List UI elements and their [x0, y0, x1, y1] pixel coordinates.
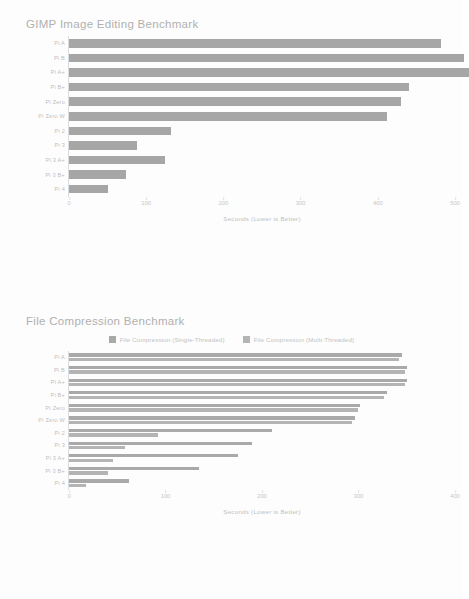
category-label: Pi 4	[55, 480, 65, 486]
legend-item[interactable]: File Compression (Multi-Threaded)	[243, 336, 355, 343]
bar-row: Pi A	[69, 36, 455, 51]
category-label: Pi B	[54, 367, 65, 373]
category-label: Pi 3	[55, 442, 65, 448]
x-axis-label: Seconds (Lower is Better)	[69, 215, 455, 222]
bar-group	[69, 54, 455, 63]
bar	[69, 141, 137, 150]
bar-row: Pi B+	[69, 80, 455, 95]
gimp-benchmark-chart: GIMP Image Editing Benchmark Pi APi BPi …	[0, 18, 463, 278]
bar	[69, 68, 469, 77]
bar-rows: Pi APi BPi A+Pi B+Pi ZeroPi Zero WPi 2Pi…	[26, 36, 455, 197]
bar-rows: Pi APi BPi A+Pi B+Pi ZeroPi Zero WPi 2Pi…	[26, 351, 455, 490]
x-tick-label: 0	[67, 200, 70, 206]
bar	[69, 454, 238, 457]
bar-row: Pi 4	[69, 477, 455, 490]
plot-area: Pi APi BPi A+Pi B+Pi ZeroPi Zero WPi 2Pi…	[26, 351, 455, 515]
category-label: Pi 4	[55, 186, 65, 192]
bar-row: Pi 3 A+	[69, 153, 455, 168]
bar	[69, 358, 399, 361]
bar-row: Pi Zero	[69, 94, 455, 109]
bar-group	[69, 379, 455, 387]
bar-group	[69, 68, 455, 77]
plot: Pi APi BPi A+Pi B+Pi ZeroPi Zero WPi 2Pi…	[26, 351, 455, 490]
bar-group	[69, 404, 455, 412]
legend-swatch-icon	[109, 336, 116, 343]
bar-row: Pi 2	[69, 124, 455, 139]
bar	[69, 39, 441, 48]
category-label: Pi 3 B+	[45, 468, 65, 474]
category-label: Pi Zero	[46, 99, 65, 105]
bar-row: Pi 3	[69, 138, 455, 153]
x-tick-mark	[301, 197, 302, 200]
x-tick-label: 100	[161, 493, 171, 499]
category-label: Pi Zero	[46, 405, 65, 411]
bar	[69, 391, 387, 394]
category-label: Pi Zero W	[38, 417, 65, 423]
bar	[69, 383, 405, 386]
x-axis: 0100200300400	[69, 490, 455, 506]
x-tick-label: 100	[141, 200, 151, 206]
x-axis: 0100200300400500	[69, 197, 455, 213]
bar	[69, 404, 360, 407]
bar	[69, 479, 129, 482]
bar	[69, 471, 108, 474]
bar-row: Pi A+	[69, 65, 455, 80]
x-tick-mark	[223, 197, 224, 200]
category-label: Pi 3 A+	[46, 455, 65, 461]
bar-group	[69, 429, 455, 437]
bar-group	[69, 479, 455, 487]
bar-group	[69, 97, 455, 106]
bar-row: Pi 4	[69, 182, 455, 197]
category-label: Pi B+	[50, 392, 65, 398]
file-compression-benchmark-chart: File Compression Benchmark File Compress…	[0, 315, 463, 580]
category-label: Pi 2	[55, 128, 65, 134]
bar-group	[69, 83, 455, 92]
bar-group	[69, 442, 455, 450]
legend-label: File Compression (Multi-Threaded)	[254, 336, 355, 343]
bar-group	[69, 141, 455, 150]
bar-row: Pi Zero W	[69, 414, 455, 427]
x-tick-label: 300	[296, 200, 306, 206]
bar-group	[69, 391, 455, 399]
bar-group	[69, 39, 455, 48]
category-label: Pi Zero W	[38, 113, 65, 119]
x-tick-mark	[262, 490, 263, 493]
bar	[69, 396, 384, 399]
category-label: Pi 3 B+	[45, 172, 65, 178]
x-tick-mark	[455, 197, 456, 200]
category-label: Pi A	[54, 40, 65, 46]
legend-item[interactable]: File Compression (Single-Threaded)	[109, 336, 225, 343]
bar-group	[69, 112, 455, 121]
legend-swatch-icon	[243, 336, 250, 343]
bar	[69, 379, 407, 382]
bar-row: Pi 3 B+	[69, 167, 455, 182]
chart-title: File Compression Benchmark	[26, 315, 463, 327]
bar	[69, 185, 108, 194]
bar-row: Pi Zero	[69, 401, 455, 414]
legend-label: File Compression (Single-Threaded)	[120, 336, 225, 343]
x-tick-mark	[455, 490, 456, 493]
bar	[69, 442, 252, 445]
category-label: Pi B+	[50, 84, 65, 90]
bar-group	[69, 156, 455, 165]
bar-group	[69, 366, 455, 374]
plot: Pi APi BPi A+Pi B+Pi ZeroPi Zero WPi 2Pi…	[26, 36, 455, 197]
category-label: Pi A	[54, 354, 65, 360]
category-label: Pi 2	[55, 430, 65, 436]
bar-row: Pi 3 A+	[69, 452, 455, 465]
bar	[69, 353, 402, 356]
x-tick-mark	[358, 490, 359, 493]
bar-row: Pi A+	[69, 376, 455, 389]
plot-area: Pi APi BPi A+Pi B+Pi ZeroPi Zero WPi 2Pi…	[26, 36, 455, 222]
bar	[69, 54, 464, 63]
bar	[69, 366, 407, 369]
bar	[69, 467, 199, 470]
x-tick-label: 200	[219, 200, 229, 206]
bar-row: Pi 3 B+	[69, 464, 455, 477]
bar	[69, 156, 165, 165]
bar	[69, 127, 171, 136]
bar-group	[69, 185, 455, 194]
bar-row: Pi B+	[69, 389, 455, 402]
bar	[69, 433, 158, 436]
